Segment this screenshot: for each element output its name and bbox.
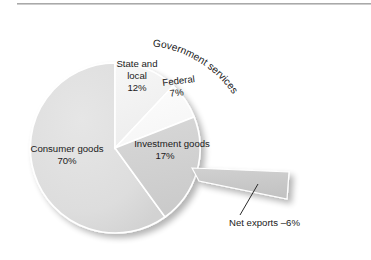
label-federal: Federal — [162, 73, 196, 88]
label-state-and-local-percent: 12% — [127, 82, 147, 93]
label-state-and-local-line2: local — [127, 70, 147, 81]
label-state-and-local-line1: State and — [116, 58, 157, 69]
label-federal-percent: 7% — [169, 86, 185, 99]
label-consumer-goods: Consumer goods — [30, 143, 103, 154]
label-consumer-goods-percent: 70% — [57, 155, 77, 166]
label-investment-goods: Investment goods — [134, 138, 210, 149]
figure-canvas: State and local 12% Federal 7% Investmen… — [0, 0, 371, 260]
pie-slice-net-exports[interactable] — [192, 168, 289, 199]
pie-chart: State and local 12% Federal 7% Investmen… — [0, 0, 371, 260]
label-net-exports: Net exports –6% — [229, 217, 300, 228]
label-investment-goods-percent: 17% — [155, 150, 175, 161]
